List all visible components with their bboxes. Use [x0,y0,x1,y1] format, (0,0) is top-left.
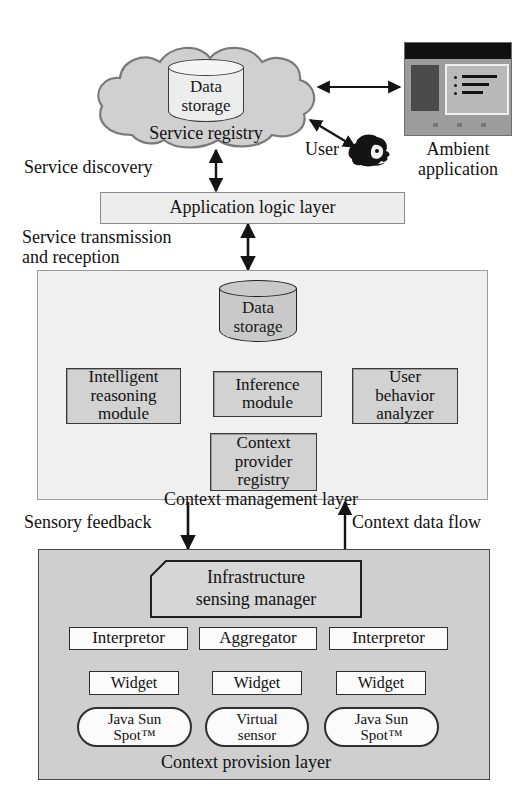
monitor-bullet-icon [454,92,457,95]
infrastructure-sensing-manager-label-2: sensing manager [150,590,362,609]
monitor-footer-mark [433,123,438,127]
monitor-text-line [462,83,489,86]
interpretor-left-label: Interpretor [92,629,165,647]
monitor-footer-mark [481,123,486,127]
user-avatar-icon [344,132,394,172]
cloud-data-storage-cylinder: Data storage [168,58,244,126]
diagram-canvas: Data storage Service registry Ambient ap… [0,0,527,805]
widget-left[interactable]: Widget [89,671,179,695]
ambient-application-label-1: Ambient [398,140,518,159]
context-datastore-cylinder: Data storage [219,279,297,347]
widget-middle-label: Widget [234,674,280,691]
sensor-right-label-1: Java Sun [355,711,409,727]
sensor-middle-label-1: Virtual [236,711,278,727]
monitor-text-line [462,75,497,78]
sensor-left[interactable]: Java Sun Spot™ [77,707,192,747]
infrastructure-sensing-manager[interactable]: Infrastructure sensing manager [150,560,362,618]
context-provision-layer-label: Context provision layer [161,753,331,772]
sensor-middle-label-2: sensor [238,727,276,743]
monitor-titlebar [405,43,511,59]
intelligent-reasoning-module-label-2: reasoning [90,387,156,405]
context-provider-registry-label-1: Context [237,434,291,452]
service-registry-label: Service registry [118,124,294,143]
intelligent-reasoning-module-label-3: module [98,405,149,423]
service-transmission-label-2: and reception [22,248,119,267]
sensor-right[interactable]: Java Sun Spot™ [324,707,439,747]
service-discovery-label: Service discovery [24,158,152,177]
widget-middle[interactable]: Widget [212,671,302,695]
application-logic-layer[interactable]: Application logic layer [100,192,405,224]
intelligent-reasoning-module[interactable]: Intelligent reasoning module [66,368,181,424]
sensor-middle[interactable]: Virtual sensor [205,707,309,747]
widget-left-label: Widget [111,674,157,691]
aggregator[interactable]: Aggregator [199,627,317,650]
interpretor-left[interactable]: Interpretor [69,627,188,650]
sensor-left-label-1: Java Sun [108,711,162,727]
service-transmission-label-1: Service transmission [22,228,171,247]
monitor-bullet-icon [454,84,457,87]
application-logic-layer-label: Application logic layer [170,198,336,217]
ambient-application-monitor [404,42,512,136]
cloud-datastore-label-2: storage [168,97,244,115]
inference-module-label-1: Inference [235,376,299,394]
user-behavior-analyzer-label-3: analyzer [376,405,434,423]
context-provider-registry-label-2: provider [235,453,293,471]
ambient-application-label-2: application [392,160,524,179]
user-behavior-analyzer-label-1: User [389,368,421,386]
user-behavior-analyzer-label-2: behavior [375,387,434,405]
cloud-datastore-label-1: Data [168,78,244,96]
sensory-feedback-label: Sensory feedback [24,513,151,532]
context-provider-registry-label-3: registry [238,471,290,489]
sensor-left-label-2: Spot™ [113,727,155,743]
sensor-right-label-2: Spot™ [360,727,402,743]
context-datastore-label-2: storage [219,318,297,336]
user-label: User [305,140,339,159]
monitor-content-window [445,64,509,115]
interpretor-right-label: Interpretor [352,629,425,647]
user-behavior-analyzer[interactable]: User behavior analyzer [352,368,458,424]
context-provider-registry[interactable]: Context provider registry [210,433,317,491]
context-management-layer-label: Context management layer [164,490,358,509]
monitor-side-pane [411,65,439,111]
interpretor-right[interactable]: Interpretor [329,627,448,650]
widget-right[interactable]: Widget [336,671,426,695]
intelligent-reasoning-module-label-1: Intelligent [89,368,159,386]
widget-right-label: Widget [358,674,404,691]
inference-module-label-2: module [242,394,293,412]
monitor-bullet-icon [454,76,457,79]
context-data-flow-label: Context data flow [352,513,481,532]
inference-module[interactable]: Inference module [213,371,322,417]
context-datastore-label-1: Data [219,299,297,317]
monitor-text-line [462,91,483,94]
monitor-footer-mark [457,123,462,127]
aggregator-label: Aggregator [219,629,296,647]
infrastructure-sensing-manager-label-1: Infrastructure [150,568,362,587]
